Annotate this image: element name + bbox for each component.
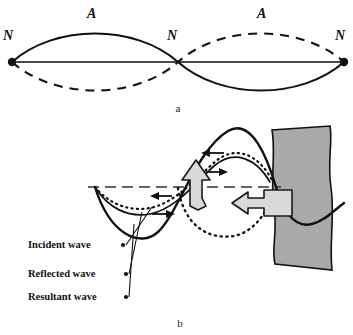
direction-arrow-left-lower: [150, 192, 172, 200]
label-dot-incident: [121, 243, 125, 247]
panel-b-caption: b: [165, 317, 195, 329]
label-dot-resultant: [124, 295, 128, 299]
panel-b-group: [88, 126, 344, 299]
resultant-wave-label: Resultant wave: [28, 291, 97, 302]
node-label-left: N: [3, 28, 13, 44]
figure-container: N N N A A Incident wave Reflected wave R…: [0, 0, 353, 335]
node-label-right: N: [335, 28, 345, 44]
standing-wave-diagram: [0, 0, 353, 335]
node-label-middle: N: [167, 28, 177, 44]
antinode-label-right: A: [257, 6, 266, 22]
antinode-label-left: A: [87, 6, 96, 22]
panel-a-node-dot-left: [8, 58, 16, 66]
direction-arrow-right-upper: [206, 168, 228, 176]
panel-a-group: [8, 34, 348, 91]
panel-a-node-dot-right: [340, 58, 348, 66]
panel-a-caption: a: [163, 102, 193, 114]
incoming-wave-block-arrow: [232, 190, 292, 216]
reflected-wave-label: Reflected wave: [28, 268, 95, 279]
label-dot-reflected: [124, 272, 128, 276]
incident-wave-label: Incident wave: [28, 239, 91, 250]
